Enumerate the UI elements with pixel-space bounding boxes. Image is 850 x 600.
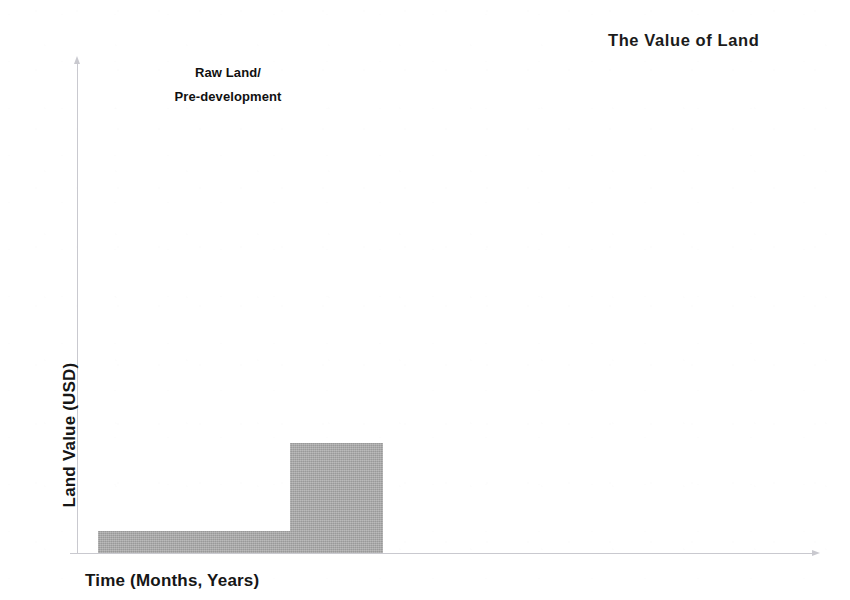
chart-title: The Value of Land [608, 31, 759, 50]
raw-land-annotation: Raw Land/ Pre-development [138, 61, 318, 109]
chart-canvas: The Value of Land Land Value (USD) Time … [0, 0, 850, 600]
y-axis-label: Land Value (USD) [60, 325, 80, 545]
y-axis-arrowhead [74, 56, 80, 64]
annotation-line-2: Pre-development [138, 85, 318, 109]
step-bar-early-development [290, 443, 382, 553]
scan-grain-overlay [0, 0, 850, 600]
x-axis-line [70, 553, 815, 554]
x-axis-label: Time (Months, Years) [85, 571, 259, 591]
step-bar-raw-land [98, 531, 291, 553]
x-axis-arrowhead [812, 550, 820, 556]
annotation-line-1: Raw Land/ [138, 61, 318, 85]
